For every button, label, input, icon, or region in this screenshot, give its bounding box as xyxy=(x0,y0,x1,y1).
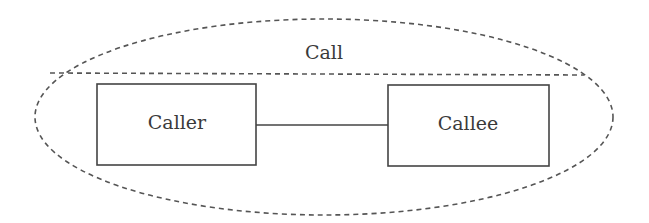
caller-label: Caller xyxy=(148,111,207,133)
call-diagram: Call Caller Callee xyxy=(0,0,649,223)
call-label: Call xyxy=(305,41,343,63)
call-divider-line xyxy=(50,73,584,75)
callee-node: Callee xyxy=(388,85,549,166)
callee-label: Callee xyxy=(438,112,499,134)
caller-node: Caller xyxy=(97,84,256,165)
